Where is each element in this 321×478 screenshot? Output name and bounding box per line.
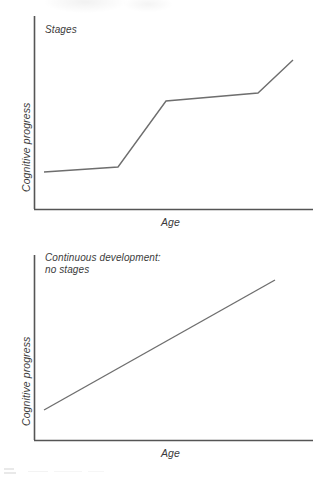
continuous-annotation-line1: Continuous development: <box>45 252 161 264</box>
chart-panel-continuous: Continuous development: no stages Cognit… <box>0 238 321 478</box>
y-axis-label-continuous: Cognitive progress <box>20 337 32 426</box>
x-axis-label-stages: Age <box>161 216 180 228</box>
stages-annotation: Stages <box>45 24 77 36</box>
y-axis-label-stages: Cognitive progress <box>20 103 32 192</box>
figure-page: Stages Cognitive progress Age Continuous… <box>0 0 321 478</box>
continuous-annotation-line2: no stages <box>45 264 89 276</box>
x-axis-label-continuous: Age <box>161 447 180 459</box>
chart-panel-stages: Stages Cognitive progress Age <box>0 0 321 238</box>
stages-data-line <box>44 60 293 172</box>
continuous-data-line <box>44 280 275 410</box>
